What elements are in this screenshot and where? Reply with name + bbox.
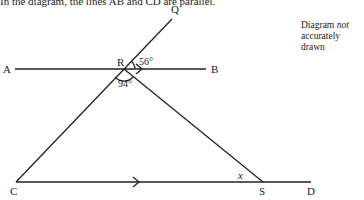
angle-56-label: 56° (139, 57, 153, 67)
angle-arc-56 (131, 61, 135, 69)
line-rs (124, 69, 263, 182)
angle-x-label: x (238, 170, 243, 181)
point-c-label: C (10, 186, 17, 197)
angle-94-label: 94° (118, 79, 132, 89)
point-b-label: B (211, 64, 218, 75)
diagram-note: Diagram not accurately drawn (301, 20, 364, 53)
point-q-label: Q (171, 4, 179, 15)
point-r-label: R (117, 57, 124, 68)
point-a-label: A (3, 64, 11, 75)
line-cq (16, 19, 172, 182)
point-d-label: D (307, 186, 315, 197)
point-s-label: S (259, 186, 265, 197)
